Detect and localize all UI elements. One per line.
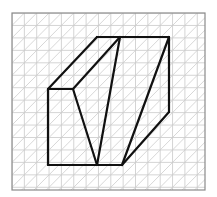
edge-EG	[122, 37, 169, 165]
grid-line-diagonal	[0, 1, 12, 13]
grid-line-diagonal	[160, 187, 172, 197]
grid-line-diagonal	[12, 150, 24, 162]
grid-line-diagonal	[61, 50, 73, 62]
grid-line-diagonal	[12, 100, 24, 112]
grid-line-diagonal	[86, 38, 98, 50]
grid-line-diagonal	[173, 88, 185, 100]
grid-line-diagonal	[86, 175, 98, 187]
grid-line-diagonal	[24, 150, 36, 162]
grid-line-diagonal	[12, 38, 24, 50]
grid-line-diagonal	[173, 50, 185, 62]
grid-line-diagonal	[49, 63, 61, 75]
grid-line-diagonal	[0, 150, 12, 162]
grid-line-diagonal	[185, 162, 197, 174]
grid-line-diagonal	[0, 113, 12, 125]
grid-line-diagonal	[111, 1, 123, 13]
grid-line-diagonal	[136, 1, 148, 13]
grid-line-diagonal	[12, 113, 24, 125]
grid-line-diagonal	[111, 138, 123, 150]
grid-line-diagonal	[74, 63, 86, 75]
grid-line-diagonal	[49, 113, 61, 125]
grid-line-diagonal	[185, 187, 197, 197]
grid-line-diagonal	[0, 138, 12, 150]
grid-line-diagonal	[197, 138, 209, 150]
grid-line-diagonal	[12, 1, 24, 13]
grid-line-diagonal	[160, 75, 172, 87]
grid-line-diagonal	[173, 38, 185, 50]
grid-line-diagonal	[61, 75, 73, 87]
grid-line-diagonal	[185, 13, 197, 25]
grid-line-diagonal	[49, 50, 61, 62]
grid-line-diagonal	[74, 150, 86, 162]
grid-line-diagonal	[185, 50, 197, 62]
grid-line-diagonal	[136, 13, 148, 25]
grid-line-diagonal	[61, 38, 73, 50]
grid-line-diagonal	[49, 150, 61, 162]
solid-figure	[48, 37, 169, 165]
grid-line-diagonal	[197, 125, 209, 137]
grid-line-diagonal	[37, 13, 49, 25]
grid-line-diagonal	[173, 125, 185, 137]
grid-line-diagonal	[12, 63, 24, 75]
grid-line-diagonal	[123, 88, 135, 100]
grid-line-diagonal	[0, 63, 12, 75]
grid-line-diagonal	[24, 25, 36, 37]
grid-line-diagonal	[173, 13, 185, 25]
grid-line-diagonal	[0, 162, 12, 174]
grid-line-diagonal	[173, 175, 185, 187]
grid-line-diagonal	[0, 187, 12, 197]
grid-line-diagonal	[123, 162, 135, 174]
grid-line-diagonal	[148, 13, 160, 25]
grid-line-diagonal	[148, 100, 160, 112]
grid-line-diagonal	[0, 175, 12, 187]
grid-line-diagonal	[148, 1, 160, 13]
grid-line-diagonal	[98, 75, 110, 87]
grid-line-diagonal	[173, 150, 185, 162]
grid-line-diagonal	[185, 125, 197, 137]
grid-line-diagonal	[12, 50, 24, 62]
grid-line-diagonal	[148, 187, 160, 197]
grid-line-diagonal	[136, 75, 148, 87]
grid-line-diagonal	[160, 125, 172, 137]
grid-line-diagonal	[197, 150, 209, 162]
grid-line-diagonal	[160, 1, 172, 13]
grid-line-diagonal	[173, 138, 185, 150]
grid-line-diagonal	[37, 187, 49, 197]
grid-line-diagonal	[123, 113, 135, 125]
grid-line-diagonal	[136, 162, 148, 174]
grid-line-diagonal	[173, 187, 185, 197]
grid-line-diagonal	[136, 63, 148, 75]
grid-line-diagonal	[111, 88, 123, 100]
grid-line-diagonal	[0, 75, 12, 87]
grid-line-diagonal	[0, 100, 12, 112]
grid-line-diagonal	[61, 125, 73, 137]
grid-line-diagonal	[74, 1, 86, 13]
grid-line-diagonal	[173, 113, 185, 125]
grid-line-diagonal	[136, 187, 148, 197]
grid-line-diagonal	[173, 1, 185, 13]
grid-line-diagonal	[197, 88, 209, 100]
grid-line-diagonal	[197, 50, 209, 62]
grid-line-diagonal	[160, 63, 172, 75]
grid-line-diagonal	[160, 100, 172, 112]
grid-line-diagonal	[12, 175, 24, 187]
grid-line-diagonal	[123, 13, 135, 25]
grid-line-diagonal	[61, 1, 73, 13]
grid-line-diagonal	[185, 88, 197, 100]
grid-line-diagonal	[24, 162, 36, 174]
grid-line-diagonal	[37, 25, 49, 37]
grid-line-diagonal	[86, 1, 98, 13]
grid-line-diagonal	[12, 88, 24, 100]
grid-line-diagonal	[123, 50, 135, 62]
grid-line-diagonal	[197, 13, 209, 25]
grid-line-diagonal	[136, 175, 148, 187]
grid-line-diagonal	[24, 187, 36, 197]
grid-line-diagonal	[61, 138, 73, 150]
grid-line-diagonal	[24, 50, 36, 62]
grid-line-diagonal	[160, 162, 172, 174]
grid-line-diagonal	[37, 175, 49, 187]
grid-line-diagonal	[86, 187, 98, 197]
grid-line-diagonal	[0, 13, 12, 25]
grid-line-diagonal	[98, 1, 110, 13]
edge-DH	[97, 37, 120, 165]
